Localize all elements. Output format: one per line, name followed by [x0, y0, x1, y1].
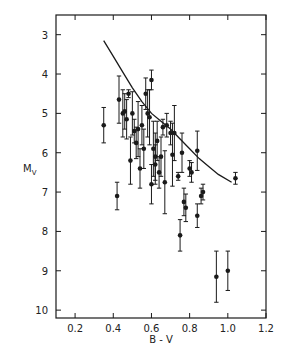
point-marker	[214, 274, 219, 279]
x-tick-label: 1.0	[220, 323, 236, 334]
point-marker	[163, 180, 168, 185]
data-point	[214, 251, 219, 302]
data-point	[195, 204, 200, 228]
point-marker	[233, 176, 238, 181]
point-marker	[126, 91, 131, 96]
data-point	[178, 220, 183, 251]
point-marker	[147, 115, 152, 120]
data-point	[176, 172, 181, 180]
y-tick-label: 7	[42, 187, 48, 198]
x-tick-label: 0.4	[105, 323, 121, 334]
data-point	[128, 137, 133, 184]
point-marker	[136, 127, 141, 132]
x-tick-label: 0.8	[182, 323, 198, 334]
data-point	[117, 76, 122, 123]
data-point	[163, 151, 168, 214]
point-marker	[195, 213, 200, 218]
point-marker	[226, 268, 231, 273]
y-tick-label: 6	[42, 148, 48, 159]
point-marker	[172, 131, 177, 136]
x-tick-label: 0.6	[144, 323, 160, 334]
point-marker	[201, 190, 206, 195]
point-marker	[164, 123, 169, 128]
y-tick-label: 9	[42, 266, 48, 277]
point-marker	[153, 162, 158, 167]
x-axis-ticks: 0.20.40.60.81.01.2	[67, 15, 274, 334]
data-point	[149, 70, 154, 90]
y-tick-label: 3	[42, 30, 48, 41]
point-marker	[155, 139, 160, 144]
point-marker	[101, 123, 106, 128]
data-point	[115, 182, 120, 210]
point-marker	[142, 146, 147, 151]
point-marker	[128, 158, 133, 163]
x-tick-label: 0.2	[67, 323, 83, 334]
point-marker	[189, 170, 194, 175]
point-marker	[130, 111, 135, 116]
data-point	[126, 90, 131, 98]
point-marker	[117, 97, 122, 102]
point-marker	[184, 206, 189, 211]
point-marker	[178, 233, 183, 238]
x-axis-label: B - V	[149, 334, 173, 345]
y-tick-label: 4	[42, 69, 48, 80]
data-point	[195, 131, 200, 170]
y-tick-label: 8	[42, 226, 48, 237]
point-marker	[115, 194, 120, 199]
y-axis-label-main: M	[23, 163, 32, 174]
point-marker	[140, 123, 145, 128]
data-points	[101, 70, 237, 302]
y-axis-label: MV	[23, 163, 37, 177]
y-tick-label: 10	[35, 305, 48, 316]
data-point	[101, 107, 106, 142]
point-marker	[138, 166, 143, 171]
x-tick-label: 1.2	[258, 323, 274, 334]
y-axis-label-sub: V	[32, 169, 37, 177]
hr-diagram-chart: 0.20.40.60.81.01.2 345678910 B - V MV	[0, 0, 287, 362]
y-axis-ticks: 345678910	[35, 30, 266, 316]
point-marker	[159, 154, 164, 159]
point-marker	[149, 78, 154, 83]
point-marker	[149, 182, 154, 187]
y-tick-label: 5	[42, 108, 48, 119]
point-marker	[180, 150, 185, 155]
point-marker	[195, 148, 200, 153]
data-point	[226, 251, 231, 290]
data-point	[233, 172, 238, 184]
point-marker	[176, 174, 181, 179]
point-marker	[124, 117, 129, 122]
